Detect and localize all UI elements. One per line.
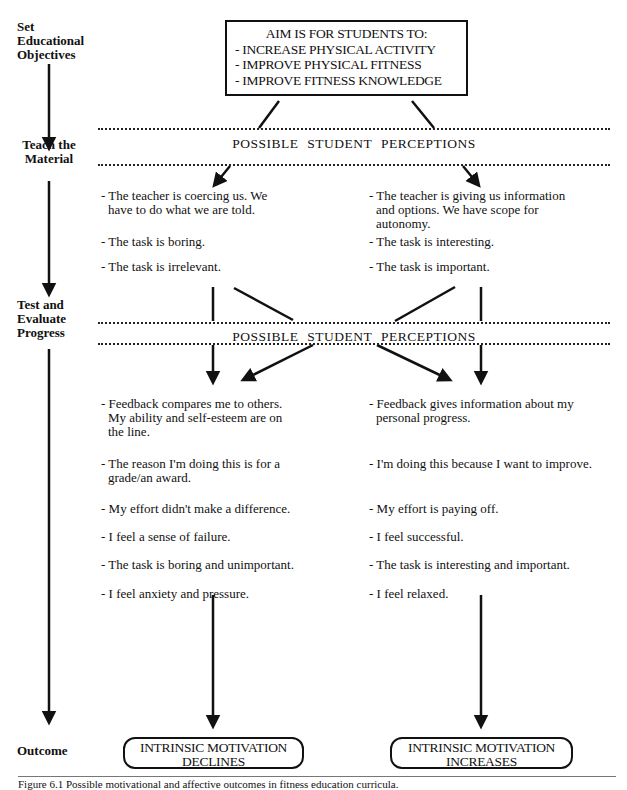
perception-item: - The teacher is giving us information a… [369, 189, 565, 231]
perception-item: - The teacher is coercing us. We have to… [101, 189, 267, 217]
perception-item: - The task is irrelevant. [101, 260, 221, 274]
outcome-text: INCREASES [396, 755, 567, 769]
perception-item: - I feel anxiety and pressure. [101, 587, 249, 601]
dotted-divider [98, 164, 610, 166]
figure-caption: Figure 6.1 Possible motivational and aff… [18, 778, 398, 790]
aim-item: - INCREASE PHYSICAL ACTIVITY [227, 42, 466, 58]
stage-text: Teach the [17, 138, 81, 152]
outcome-box-declines: INTRINSIC MOTIVATION DECLINES [123, 737, 304, 769]
perception-item: - The task is interesting. [369, 235, 494, 249]
dotted-divider [98, 128, 610, 130]
stage-text: Progress [17, 326, 66, 340]
aim-item: - IMPROVE FITNESS KNOWLEDGE [227, 73, 466, 89]
outcome-text: INTRINSIC MOTIVATION [129, 741, 298, 755]
aim-item: - IMPROVE PHYSICAL FITNESS [227, 57, 466, 73]
perception-item: - The reason I'm doing this is for a gra… [101, 457, 280, 485]
aim-title: AIM IS FOR STUDENTS TO: [227, 26, 466, 42]
stage-label-objectives: Set Educational Objectives [17, 20, 84, 62]
aim-box: AIM IS FOR STUDENTS TO: - INCREASE PHYSI… [225, 20, 468, 96]
outcome-box-increases: INTRINSIC MOTIVATION INCREASES [390, 737, 573, 769]
dotted-divider [98, 343, 610, 345]
stage-text: Set [17, 20, 84, 34]
perception-item: - The task is boring. [101, 235, 205, 249]
stage-label-outcome: Outcome [17, 744, 68, 758]
perception-item: - I feel a sense of failure. [101, 530, 231, 544]
outcome-text: DECLINES [129, 755, 298, 769]
stage-label-teach: Teach the Material [17, 138, 81, 166]
stage-text: Test and [17, 298, 66, 312]
stage-label-test: Test and Evaluate Progress [17, 298, 66, 340]
perception-item: - My effort didn't make a difference. [101, 502, 290, 516]
perception-item: - I feel successful. [369, 530, 464, 544]
perception-item: - The task is important. [369, 260, 490, 274]
perception-item: - The task is boring and unimportant. [101, 558, 294, 572]
stage-text: Educational [17, 34, 84, 48]
perception-item: - Feedback compares me to others. My abi… [101, 397, 282, 439]
perception-item: - I'm doing this because I want to impro… [369, 457, 592, 471]
band-label-teach: POSSIBLE STUDENT PERCEPTIONS [98, 136, 610, 152]
caption-divider [18, 776, 616, 777]
outcome-text: INTRINSIC MOTIVATION [396, 741, 567, 755]
perception-item: - I feel relaxed. [369, 587, 448, 601]
stage-text: Material [17, 152, 81, 166]
stage-text: Evaluate [17, 312, 66, 326]
dotted-divider [98, 322, 610, 324]
stage-text: Objectives [17, 48, 84, 62]
perception-item: - My effort is paying off. [369, 502, 499, 516]
perception-item: - Feedback gives information about my pe… [369, 397, 574, 425]
perception-item: - The task is interesting and important. [369, 558, 570, 572]
